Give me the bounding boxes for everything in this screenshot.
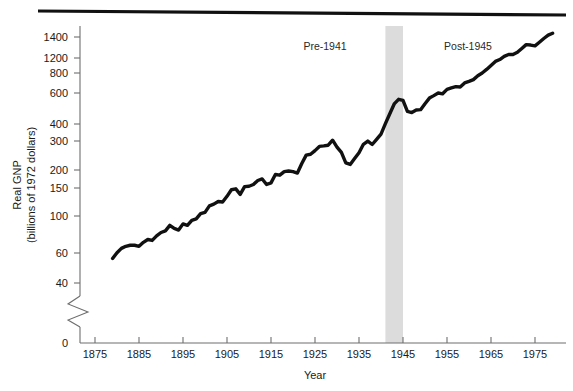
x-tick-label-1955: 1955 [435, 348, 459, 360]
x-tick-label-1935: 1935 [347, 348, 371, 360]
wwii-shaded-band [385, 26, 403, 343]
y-tick-label-300: 300 [50, 135, 68, 147]
y-axis-break-zigzag [68, 296, 88, 327]
y-tick-label-600: 600 [50, 87, 68, 99]
y-tick-label-60: 60 [56, 247, 68, 259]
x-tick-label-1915: 1915 [259, 348, 283, 360]
y-axis-title-line2: (billions of 1972 dollars) [25, 127, 37, 243]
top-divider-rule [38, 11, 566, 15]
y-tick-label-1200: 1200 [44, 52, 68, 64]
y-tick-label-0: 0 [62, 337, 68, 349]
y-tick-label-800: 800 [50, 67, 68, 79]
annotation-post-1945: Post-1945 [444, 40, 492, 52]
gnp-line-chart-svg: 1400 1200 800 600 400 300 200 150 100 60… [0, 0, 573, 391]
chart-figure: 1400 1200 800 600 400 300 200 150 100 60… [0, 0, 573, 391]
x-tick-label-1895: 1895 [171, 348, 195, 360]
y-axis-title-line1: Real GNP [11, 160, 23, 210]
real-gnp-line [113, 33, 553, 258]
x-axis-title: Year [304, 369, 327, 381]
y-tick-label-400: 400 [50, 118, 68, 130]
x-tick-label-1965: 1965 [479, 348, 503, 360]
y-tick-label-100: 100 [50, 210, 68, 222]
y-tick-label-1400: 1400 [44, 31, 68, 43]
x-tick-label-1905: 1905 [215, 348, 239, 360]
x-tick-label-1875: 1875 [83, 348, 107, 360]
annotation-pre-1941: Pre-1941 [303, 40, 346, 52]
y-tick-label-40: 40 [56, 277, 68, 289]
y-tick-label-200: 200 [50, 164, 68, 176]
x-tick-label-1945: 1945 [391, 348, 415, 360]
x-tick-label-1975: 1975 [523, 348, 547, 360]
x-axis-ticks: 1875 1885 1895 1905 1915 1925 1935 1945 … [83, 337, 547, 360]
x-tick-label-1925: 1925 [303, 348, 327, 360]
y-tick-label-150: 150 [50, 182, 68, 194]
y-axis-ticks: 1400 1200 800 600 400 300 200 150 100 60… [44, 31, 80, 349]
x-tick-label-1885: 1885 [127, 348, 151, 360]
